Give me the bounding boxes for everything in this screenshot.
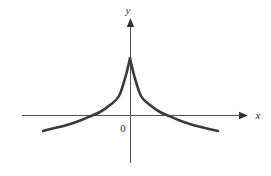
plot-canvas: y x 0 xyxy=(0,0,271,176)
x-axis-label: x xyxy=(255,109,261,121)
y-axis-arrowhead xyxy=(127,18,134,27)
graph-figure: y x 0 xyxy=(0,0,271,176)
x-axis-arrowhead xyxy=(239,112,248,119)
y-axis-label: y xyxy=(125,4,131,16)
origin-label: 0 xyxy=(120,122,126,134)
